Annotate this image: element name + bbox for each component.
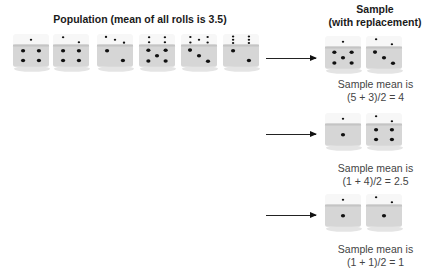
sample-title-line2: (with replacement) (312, 16, 431, 28)
sample-title-line1: Sample (320, 3, 430, 15)
caption-line: (1 + 4)/2 = 2.5 (318, 175, 431, 188)
caption-line: (5 + 3)/2 = 4 (318, 91, 431, 104)
sample-die-icon (365, 112, 405, 156)
sample-die-icon (365, 193, 405, 237)
caption-line: Sample mean is (318, 78, 431, 91)
die-icon (12, 33, 52, 77)
caption-line: Sample mean is (318, 162, 431, 175)
die-icon (52, 33, 92, 77)
population-title: Population (mean of all rolls is 3.5) (30, 13, 250, 25)
caption-line: (1 + 1)/2 = 1 (318, 256, 431, 269)
sample-die-icon (324, 112, 364, 156)
die-icon (180, 33, 220, 77)
arrow-icon (266, 134, 316, 135)
die-icon (222, 33, 262, 77)
sample-die-icon (324, 35, 364, 79)
arrow-icon (266, 215, 316, 216)
sample-die-icon (365, 35, 405, 79)
caption-line: Sample mean is (318, 243, 431, 256)
sample-caption-3: Sample mean is (1 + 1)/2 = 1 (318, 243, 431, 269)
arrow-icon (266, 58, 316, 59)
die-icon (96, 33, 136, 77)
sample-caption-2: Sample mean is (1 + 4)/2 = 2.5 (318, 162, 431, 188)
sample-die-icon (324, 193, 364, 237)
sample-caption-1: Sample mean is (5 + 3)/2 = 4 (318, 78, 431, 104)
die-icon (138, 33, 178, 77)
